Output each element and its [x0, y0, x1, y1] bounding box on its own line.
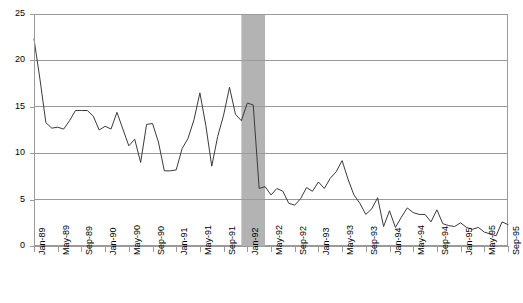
x-tick-mark: [295, 247, 296, 252]
x-tick-mark: [247, 247, 248, 252]
x-tick-label: Sep-94: [441, 226, 450, 255]
y-tick-label: 0: [1, 241, 25, 250]
y-tick-mark: [30, 200, 35, 201]
x-tick-mark: [34, 247, 35, 252]
x-tick-mark: [200, 247, 201, 252]
x-tick-label: Jan-91: [180, 227, 189, 255]
x-tick-label: Sep-93: [370, 226, 379, 255]
x-tick-mark: [484, 247, 485, 252]
x-tick-label: Sep-95: [512, 226, 521, 255]
y-tick-mark: [30, 107, 35, 108]
x-tick-mark: [437, 247, 438, 252]
y-tick-mark: [30, 60, 35, 61]
x-tick-label: Sep-89: [85, 226, 94, 255]
x-tick-mark: [318, 247, 319, 252]
gridlines: [34, 14, 508, 200]
y-axis-line: [34, 14, 35, 247]
shaded-period-band: [241, 14, 265, 246]
y-tick-label: 20: [1, 55, 25, 64]
x-tick-mark: [461, 247, 462, 252]
x-tick-label: May-94: [417, 225, 426, 255]
y-tick-label: 25: [1, 9, 25, 18]
y-tick-mark: [30, 14, 35, 15]
x-tick-label: May-92: [275, 225, 284, 255]
y-tick-mark: [30, 153, 35, 154]
x-tick-mark: [271, 247, 272, 252]
x-tick-mark: [342, 247, 343, 252]
shaded-band-rect: [241, 14, 265, 246]
x-tick-mark: [366, 247, 367, 252]
y-tick-label: 10: [1, 148, 25, 157]
x-tick-mark: [58, 247, 59, 252]
x-tick-label: Sep-92: [299, 226, 308, 255]
x-tick-mark: [153, 247, 154, 252]
y-tick-label: 5: [1, 195, 25, 204]
x-tick-mark: [224, 247, 225, 252]
x-tick-mark: [176, 247, 177, 252]
x-tick-mark: [390, 247, 391, 252]
x-tick-label: May-93: [346, 225, 355, 255]
y-tick-label: 15: [1, 102, 25, 111]
series-line: [34, 39, 508, 236]
x-tick-label: Jan-95: [465, 227, 474, 255]
x-tick-label: May-89: [62, 225, 71, 255]
x-tick-mark: [129, 247, 130, 252]
x-tick-mark: [413, 247, 414, 252]
x-tick-label: Jan-93: [322, 227, 331, 255]
x-tick-mark: [105, 247, 106, 252]
x-tick-label: Sep-91: [228, 226, 237, 255]
x-tick-label: May-91: [204, 225, 213, 255]
plot-canvas: [34, 14, 508, 246]
x-tick-label: Jan-89: [38, 227, 47, 255]
line-chart: 0510152025 Jan-89May-89Sep-89Jan-90May-9…: [0, 0, 523, 303]
x-tick-label: Jan-94: [394, 227, 403, 255]
x-tick-label: Sep-90: [157, 226, 166, 255]
x-tick-label: May-95: [488, 225, 497, 255]
x-tick-mark: [508, 247, 509, 252]
x-tick-label: May-90: [133, 225, 142, 255]
x-tick-label: Jan-90: [109, 227, 118, 255]
x-tick-label: Jan-92: [251, 227, 260, 255]
x-tick-mark: [81, 247, 82, 252]
